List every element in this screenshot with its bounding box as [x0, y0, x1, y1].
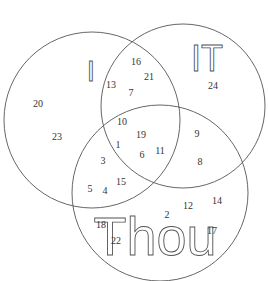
region-number: 6	[140, 149, 145, 160]
region-number: 16	[131, 56, 141, 67]
region-number: 12	[183, 200, 193, 211]
region-number: 11	[155, 145, 165, 156]
region-number: 1	[116, 139, 121, 150]
venn-diagram: IITThou 20231621137241019161198315542121…	[0, 0, 268, 281]
set-label-i: I	[87, 54, 95, 87]
set-label-it: IT	[191, 38, 223, 79]
region-number: 24	[208, 80, 218, 91]
region-number: 9	[195, 128, 200, 139]
region-number: 14	[212, 195, 222, 206]
region-number: 8	[198, 156, 203, 167]
region-number: 15	[116, 176, 126, 187]
region-number: 13	[106, 79, 116, 90]
region-number: 4	[103, 185, 108, 196]
region-number: 3	[101, 155, 106, 166]
set-circle-it	[101, 24, 265, 188]
region-number: 23	[52, 131, 62, 142]
region-number: 22	[111, 235, 121, 246]
region-number: 7	[129, 87, 134, 98]
region-number: 20	[33, 98, 43, 109]
region-number: 5	[88, 183, 93, 194]
region-number: 21	[144, 71, 154, 82]
region-number: 18	[96, 219, 106, 230]
region-number: 2	[165, 209, 170, 220]
region-number: 19	[136, 129, 146, 140]
region-number: 10	[117, 116, 127, 127]
region-number: 17	[207, 225, 217, 236]
